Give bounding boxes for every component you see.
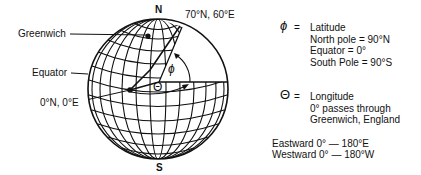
greenwich-dot <box>145 33 150 38</box>
theta-symbol: Θ <box>280 89 290 101</box>
phi-arc <box>176 55 190 82</box>
longitude-title: Longitude <box>310 91 354 103</box>
range-legend: Eastward 0° — 180°E Westward 0° — 180°W <box>272 138 420 164</box>
longitude-line-1: 0° passes through <box>310 103 391 115</box>
longitude-line-2: Greenwich, England <box>310 114 400 126</box>
longitude-legend: Θ = Longitude 0° passes through Greenwic… <box>278 91 418 131</box>
greenwich-label: Greenwich <box>18 28 66 39</box>
phi-symbol: ϕ <box>280 20 287 32</box>
origin-label: 0°N, 0°E <box>40 97 79 108</box>
theta-arrowhead <box>182 84 189 90</box>
eastward-range: Eastward 0° — 180°E <box>272 138 369 150</box>
north-label: N <box>155 4 162 15</box>
greenwich-leader <box>70 34 146 35</box>
phi-label: ϕ <box>168 64 175 75</box>
latitude-title: Latitude <box>310 22 346 34</box>
latitude-equals: = <box>294 22 300 34</box>
theta-label: Θ <box>153 82 162 93</box>
point-label: 70°N, 60°E <box>185 9 235 20</box>
origin-dot <box>127 87 133 93</box>
latitude-line-north: North pole = 90°N <box>310 34 390 46</box>
latitude-line-equator: Equator = 0° <box>310 45 366 57</box>
equator-label: Equator <box>32 67 67 78</box>
south-label: S <box>156 162 163 173</box>
phi-arrowhead <box>174 53 180 59</box>
latitude-line-south: South Pole = 90°S <box>310 57 392 69</box>
longitude-equals: = <box>294 91 300 103</box>
latitude-legend: ϕ = Latitude North pole = 90°N Equator =… <box>278 22 418 82</box>
westward-range: Westward 0° — 180°W <box>272 149 374 161</box>
equator-leader <box>71 73 88 74</box>
